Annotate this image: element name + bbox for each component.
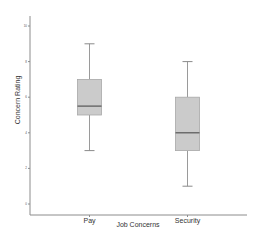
x-tick-label: Security [175, 217, 201, 225]
boxes [78, 44, 200, 186]
y-axis-title: Concern Rating [14, 76, 22, 125]
x-axis-title: Job Concerns [116, 221, 160, 228]
y-tick-label: 2 [25, 166, 27, 170]
iqr-box [78, 79, 102, 115]
y-tick-label: 4 [25, 131, 27, 135]
box-plot-chart: 0246810 PaySecurity Job Concerns Concern… [0, 0, 261, 236]
x-tick-label: Pay [83, 217, 96, 225]
box-security [176, 62, 200, 187]
box-pay [78, 44, 102, 151]
y-tick-label: 10 [24, 24, 28, 28]
iqr-box [176, 97, 200, 150]
y-ticks: 0246810 [24, 24, 30, 206]
axes: 0246810 PaySecurity [24, 16, 247, 225]
y-tick-label: 6 [25, 95, 27, 99]
y-tick-label: 0 [25, 202, 27, 206]
y-tick-label: 8 [25, 60, 27, 64]
